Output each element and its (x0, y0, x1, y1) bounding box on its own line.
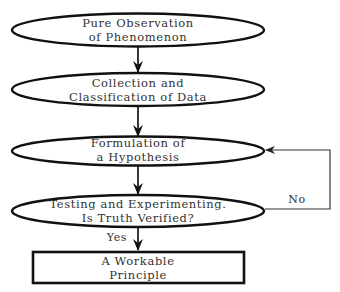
node-label-line-2: Classification of Data (69, 90, 207, 104)
node-workable-principle: A Workable Principle (33, 252, 244, 283)
node-formulation-hypothesis: Formulation of a Hypothesis (12, 136, 264, 166)
node-pure-observation: Pure Observation of Phenomenon (12, 14, 264, 47)
node-label-line-2: a Hypothesis (97, 150, 180, 164)
flowchart-canvas: Pure Observation of Phenomenon Collectio… (0, 0, 340, 292)
node-label-line-1: Testing and Experimenting. (49, 197, 226, 211)
node-label-line-1: Pure Observation (82, 16, 194, 30)
node-label-line-2: of Phenomenon (89, 30, 187, 44)
node-label-line-2: Is Truth Verified? (82, 211, 195, 225)
edge-label-no: No (288, 193, 305, 206)
node-label-line-1: A Workable (100, 254, 174, 268)
node-label-line-1: Collection and (92, 76, 185, 90)
node-label-line-2: Principle (109, 268, 167, 282)
edge-label-yes: Yes (106, 231, 127, 244)
node-label-line-1: Formulation of (91, 136, 186, 150)
node-collection-classification: Collection and Classification of Data (12, 73, 264, 106)
node-testing-experimenting: Testing and Experimenting. Is Truth Veri… (12, 195, 264, 227)
